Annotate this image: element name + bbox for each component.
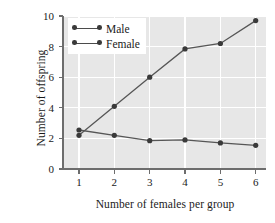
x-tick-label: 4 — [175, 176, 195, 188]
y-tick-label: 2 — [28, 132, 54, 144]
x-tick-label: 2 — [104, 176, 124, 188]
legend-label: Female — [106, 38, 140, 50]
x-tick-label: 3 — [140, 176, 160, 188]
figure: Number of offspring Number of females pe… — [0, 0, 275, 223]
legend-line-marker-icon — [72, 23, 102, 34]
legend-label: Male — [106, 23, 130, 35]
legend-line-marker-icon — [72, 38, 102, 49]
x-tick-label: 5 — [210, 176, 230, 188]
legend-item-male: Male — [72, 21, 140, 36]
y-tick-label: 10 — [28, 10, 54, 22]
y-tick-label: 0 — [28, 163, 54, 175]
x-tick-label: 6 — [246, 176, 266, 188]
legend-item-female: Female — [72, 36, 140, 51]
y-tick-label: 8 — [28, 41, 54, 53]
y-tick-label: 6 — [28, 71, 54, 83]
x-tick-marks — [79, 169, 256, 174]
x-axis-label: Number of females per group — [58, 198, 272, 210]
y-tick-label: 4 — [28, 102, 54, 114]
legend: Male Female — [68, 18, 146, 54]
x-tick-label: 1 — [69, 176, 89, 188]
